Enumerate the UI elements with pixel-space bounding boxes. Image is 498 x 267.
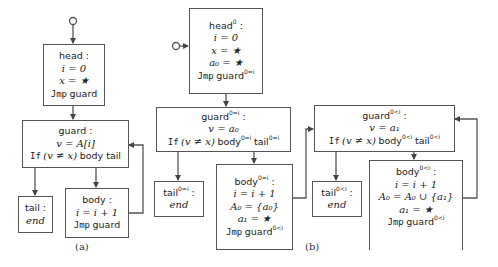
entry-node-b [173, 43, 180, 50]
node-tail: tail : end [18, 196, 53, 233]
cfg-figure: head : i = 0 x = ★ Jmp guard guard : v =… [0, 0, 498, 267]
node-guard-lt: guard0<i : v = a₁ If (v ≠ x) body0<i tai… [314, 105, 455, 152]
edge-body-guard-loop-a [128, 145, 143, 213]
caption-b: (b) [305, 241, 319, 252]
node-guard-eq: guard0=i : v = a₀ If (v ≠ x) body0=i tai… [156, 107, 291, 152]
node-head: head : i = 0 x = ★ Jmp guard [43, 44, 105, 106]
entry-node-a [70, 18, 77, 25]
edge-body-eq-guard-lt [293, 129, 313, 198]
node-guard: guard : v = A[i] If (v ≠ x) body tail [22, 120, 129, 168]
node-tail-eq: tail0=i : end [154, 181, 204, 217]
node-body-lt: body0<i : i = i + 1 A₀ = A₀ ∪ {a₁} a₁ = … [369, 160, 463, 250]
node-body: body : i = i + 1 Jmp guard [65, 188, 129, 238]
node-head0: head0 : i = 0 x = ★ a₀ = ★ Jmp guard0=i [189, 8, 263, 94]
node-body-eq: body0=i : i = i + 1 A₀ = {a₀} a₁ = ★ Jmp… [216, 164, 293, 250]
node-tail-lt: tail0<i : end [312, 181, 362, 217]
caption-a: (a) [75, 241, 89, 252]
